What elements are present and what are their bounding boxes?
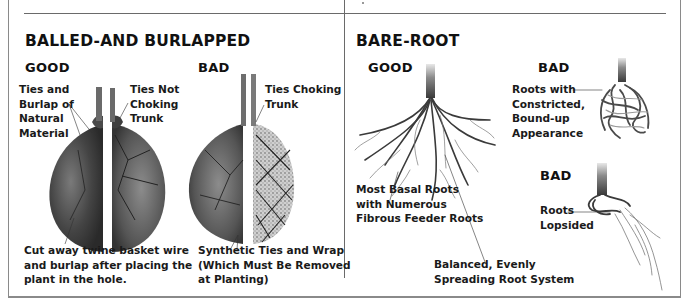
label-ties-choking: Ties Choking Trunk xyxy=(265,82,341,111)
br-bad-bound-heading: BAD xyxy=(538,60,570,75)
label-bound-up: Roots with Constricted, Bound-up Appeara… xyxy=(512,82,585,140)
br-good-heading: GOOD xyxy=(368,60,413,75)
label-ties-not-choking: Ties Not Choking Trunk xyxy=(130,82,179,126)
label-natural-material: Ties and Burlap of Natural Material xyxy=(19,82,74,140)
label-basal-roots: Most Basal Roots with Numerous Fibrous F… xyxy=(356,182,483,226)
label-balanced-system: Balanced, Evenly Spreading Root System xyxy=(434,257,574,286)
good-bare-root-illustration xyxy=(355,64,495,262)
label-synthetic-ties: Synthetic Ties and Wrap (Which Must Be R… xyxy=(198,243,351,287)
balled-and-burlapped-title: BALLED-AND BURLAPPED xyxy=(25,32,250,50)
label-cut-away-instruction: Cut away twine basket wire and burlap af… xyxy=(24,243,192,287)
bb-good-heading: GOOD xyxy=(25,60,70,75)
bare-root-title: BARE-ROOT xyxy=(356,32,459,50)
label-roots-lopsided: Roots Lopsided xyxy=(540,203,594,232)
bb-bad-heading: BAD xyxy=(198,60,230,75)
br-bad-lopsided-heading: BAD xyxy=(540,168,572,183)
